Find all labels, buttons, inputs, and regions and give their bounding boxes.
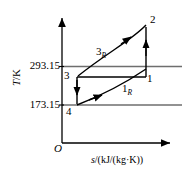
origin-label: O — [54, 143, 62, 154]
process-4-to-1 — [77, 69, 146, 105]
state-point-label-3: 3 — [64, 70, 70, 81]
state-point-label-2: 2 — [150, 14, 156, 25]
process-4-to-1-arrow — [89, 95, 102, 100]
ts-diagram-canvas — [0, 0, 191, 179]
x-axis-unit: /(kJ/(kg·K)) — [95, 154, 143, 165]
state-point-label-4: 4 — [66, 106, 72, 117]
state-point-label-1: 1 — [147, 73, 153, 84]
cycle-path-group — [77, 25, 146, 105]
x-axis-title: s/(kJ/(kg·K)) — [62, 155, 172, 165]
process-2-to-3 — [78, 25, 146, 76]
y-axis-symbol: T — [10, 80, 22, 86]
ts-diagram-figure: 293.15 173.15 T/K s/(kJ/(kg·K)) O 1 2 3 … — [0, 0, 191, 179]
process-label-1r: 1R — [122, 83, 132, 97]
process-label-1r-subscript: R — [128, 88, 133, 97]
process-label-3r-subscript: R — [102, 51, 107, 60]
y-axis-unit: /K — [10, 69, 22, 80]
y-tick-label-173: 173.15 — [13, 99, 60, 110]
y-axis-title: T/K — [11, 58, 22, 98]
axes-group — [62, 18, 170, 143]
process-2-to-3-arrow — [121, 37, 131, 44]
process-label-3r: 3R — [96, 46, 106, 60]
